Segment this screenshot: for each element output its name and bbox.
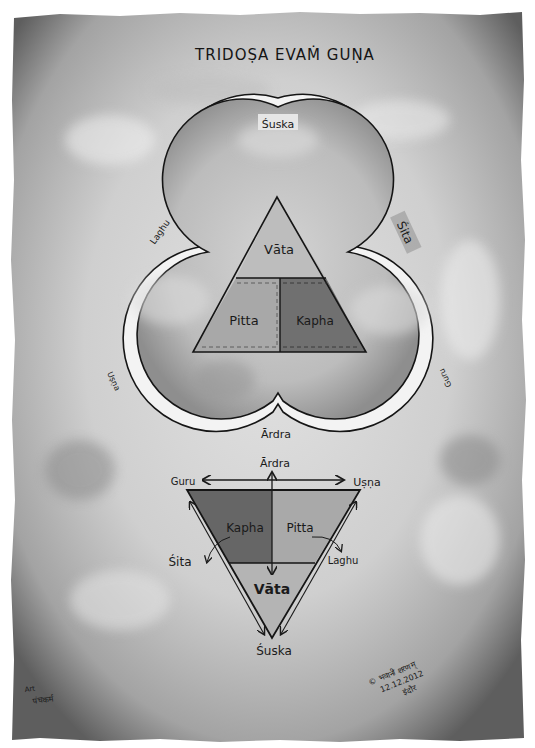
axis-label-suska: Śuska [256,643,292,658]
diagram-svg: TRIDOṢA EVAṀ GUṆA Śuska Śita Laghu Uṣṇa … [0,0,535,748]
diagram-title: TRIDOṢA EVAṀ GUṆA [194,45,375,64]
lower-label-pitta: Pitta [286,521,313,535]
lower-label-vata: Vāta [254,581,290,597]
upper-label-vata: Vāta [264,242,294,257]
axis-label-ardra: Ārdra [260,457,290,470]
trefoil-label-top: Śuska [262,118,295,131]
axis-label-guru: Guru [171,476,196,487]
artwork-canvas: TRIDOṢA EVAṀ GUṆA Śuska Śita Laghu Uṣṇa … [0,0,535,748]
lower-label-kapha: Kapha [226,521,264,535]
side-label-sita: Śita [168,554,191,569]
axis-label-usna: Uṣṇa [353,476,381,489]
trefoil-label-bottom: Ārdra [261,428,291,441]
upper-label-kapha: Kapha [296,314,334,328]
side-label-laghu: Laghu [328,555,359,566]
upper-label-pitta: Pitta [229,313,258,328]
credit-line-1: Art [24,685,36,694]
